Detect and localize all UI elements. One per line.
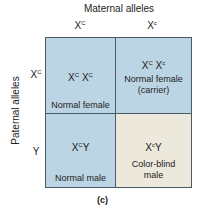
cell-xc-xc-carrier: XC Xc Normal female(carrier) [116,38,191,114]
cell-xc-y-colorblind: XcY Color-blindmale [116,114,191,187]
maternal-alleles-title: Maternal alleles [45,3,193,14]
paternal-alleles-title: Paternal alleles [10,76,21,146]
phenotype: Color-blindmale [116,159,191,181]
cell-xc-y: XCY Normal male [46,114,116,187]
genotype: XcY [116,142,191,153]
maternal-allele-1: XC [45,20,115,31]
cell-xc-xc: XC XC Normal female [46,38,116,114]
phenotype: Normal female [46,100,115,111]
punnett-square: XC XC Normal female XC Xc Normal female(… [45,37,192,188]
phenotype: Normal female(carrier) [116,74,191,96]
genotype: XC Xc [116,60,191,71]
paternal-allele-2: Y [28,146,44,157]
genotype: XC XC [46,72,115,83]
figure-caption: (c) [0,195,205,205]
phenotype: Normal male [46,173,115,184]
maternal-allele-2: Xc [117,20,187,31]
paternal-allele-1: XC [28,69,44,80]
genotype: XCY [46,142,115,153]
